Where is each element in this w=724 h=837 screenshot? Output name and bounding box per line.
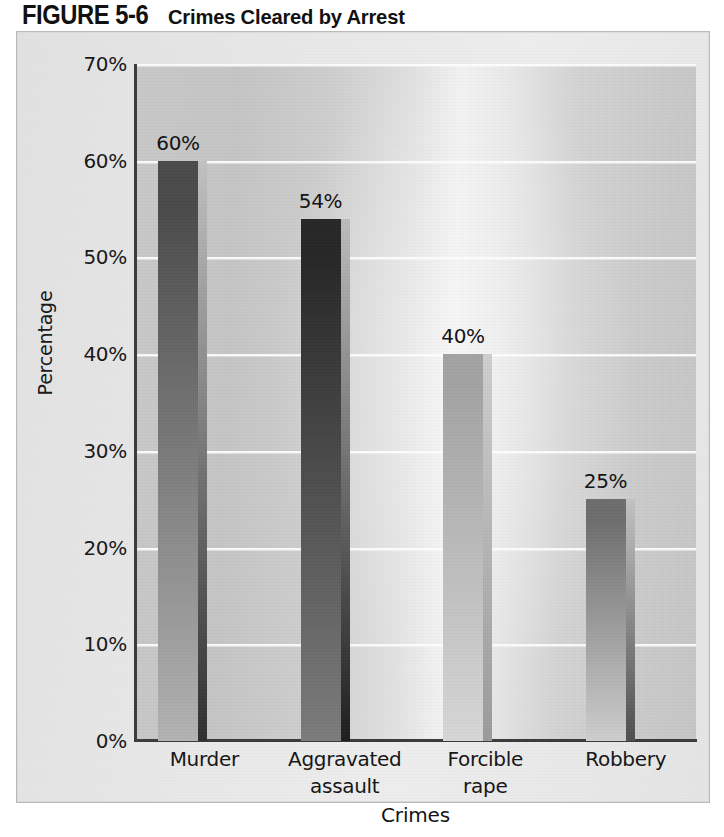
x-axis-tick-labels: MurderAggravatedassaultForciblerapeRobbe… bbox=[134, 746, 697, 808]
y-tick-label: 50% bbox=[83, 247, 127, 267]
figure-caption: Crimes Cleared by Arrest bbox=[168, 2, 405, 32]
y-axis-title: Percentage bbox=[34, 263, 56, 423]
x-tick-label-line: Robbery bbox=[556, 746, 697, 773]
figure-title: FIGURE 5-6Crimes Cleared by Arrest bbox=[22, 0, 712, 30]
bar-value-label: 40% bbox=[441, 324, 484, 348]
bar-side-shadow bbox=[483, 354, 492, 741]
bar-value-label: 54% bbox=[299, 189, 342, 213]
x-tick-label-line: rape bbox=[415, 773, 556, 800]
bar-body bbox=[158, 161, 198, 741]
y-tick-label: 10% bbox=[83, 634, 127, 654]
bar-side-shadow bbox=[198, 161, 207, 741]
bar-value-label: 25% bbox=[584, 469, 627, 493]
figure-number-label: FIGURE 5-6 bbox=[22, 0, 148, 30]
y-tick-label: 0% bbox=[96, 731, 127, 751]
x-tick-label-line: Murder bbox=[134, 746, 275, 773]
x-tick-label: Forciblerape bbox=[415, 746, 556, 800]
x-axis-title: Crimes bbox=[134, 803, 697, 827]
bar-body bbox=[301, 219, 341, 741]
bar-body bbox=[443, 354, 483, 741]
x-tick-label: Aggravatedassault bbox=[275, 746, 416, 800]
bar-side-shadow bbox=[626, 499, 635, 741]
bar: 54% bbox=[301, 219, 350, 741]
y-tick-label: 30% bbox=[83, 441, 127, 461]
figure-root: FIGURE 5-6Crimes Cleared by Arrest 60%54… bbox=[0, 0, 724, 837]
x-tick-label: Murder bbox=[134, 746, 275, 773]
y-tick-label: 40% bbox=[83, 344, 127, 364]
bar: 25% bbox=[586, 499, 635, 741]
x-tick-label-line: assault bbox=[275, 773, 416, 800]
y-tick-label: 20% bbox=[83, 538, 127, 558]
x-tick-label: Robbery bbox=[556, 746, 697, 773]
bar-value-label: 60% bbox=[156, 131, 199, 155]
bar: 60% bbox=[158, 161, 207, 741]
bar-body bbox=[586, 499, 626, 741]
x-tick-label-line: Forcible bbox=[415, 746, 556, 773]
x-tick-label-line: Aggravated bbox=[275, 746, 416, 773]
figure-panel: 60%54%40%25% 0%10%20%30%40%50%60%70% Per… bbox=[16, 31, 710, 803]
y-tick-label: 60% bbox=[83, 151, 127, 171]
y-tick-label: 70% bbox=[83, 54, 127, 74]
bar-side-shadow bbox=[341, 219, 350, 741]
bar: 40% bbox=[443, 354, 492, 741]
y-axis-tick-labels: 0%10%20%30%40%50%60%70% bbox=[57, 64, 127, 742]
bar-series: 60%54%40%25% bbox=[134, 64, 696, 741]
